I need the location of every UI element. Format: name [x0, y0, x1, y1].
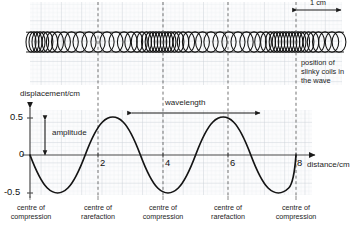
figure-root: 1 cm position of slinky coils in the wav…	[0, 0, 359, 229]
region-label-2: centre of compression	[132, 203, 194, 222]
region-label-0-line2: compression	[0, 212, 62, 221]
region-label-4-line1: centre of	[265, 203, 327, 212]
scale-label-1cm: 1 cm	[310, 0, 326, 7]
coils-annotation-line3: the wave	[301, 76, 344, 85]
region-label-1: centre of rarefaction	[67, 203, 129, 222]
coils-annotation: position of slinky coils in the wave	[301, 58, 344, 86]
region-tickmarks	[30, 196, 296, 200]
region-label-3-line1: centre of	[197, 203, 259, 212]
x-axis-title: distance/cm	[307, 160, 350, 169]
y-tick-0: 0	[19, 148, 24, 159]
region-label-1-line1: centre of	[67, 203, 129, 212]
wave-diagram-svg	[0, 0, 359, 229]
x-tick-8: 8	[297, 157, 302, 168]
top-panel-grid	[30, 2, 342, 85]
wavelength-label: wavelength	[165, 98, 205, 107]
region-label-0: centre of compression	[0, 203, 62, 222]
region-label-4: centre of compression	[265, 203, 327, 222]
region-label-3-line2: rarefaction	[197, 212, 259, 221]
x-tick-4: 4	[165, 157, 170, 168]
region-label-0-line1: centre of	[0, 203, 62, 212]
x-tick-2: 2	[100, 157, 105, 168]
y-tick-neg0_5: -0.5	[4, 186, 20, 197]
region-label-2-line1: centre of	[132, 203, 194, 212]
region-label-4-line2: compression	[265, 212, 327, 221]
y-tick-0_5: 0.5	[10, 111, 23, 122]
coils-annotation-line2: slinky coils in	[301, 67, 344, 76]
y-axis-title: displacement/cm	[20, 89, 80, 98]
region-label-1-line2: rarefaction	[67, 212, 129, 221]
region-label-3: centre of rarefaction	[197, 203, 259, 222]
x-tick-6: 6	[230, 157, 235, 168]
coils-annotation-line1: position of	[301, 58, 344, 67]
amplitude-label: amplitude	[52, 128, 87, 137]
region-label-2-line2: compression	[132, 212, 194, 221]
